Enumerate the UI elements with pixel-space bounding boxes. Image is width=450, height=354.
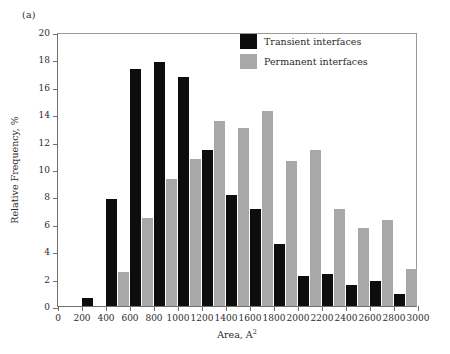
y-tick-6: 6: [53, 226, 58, 227]
x-tick-label-2800: 2800: [383, 313, 406, 323]
y-tick-label-4: 4: [44, 247, 50, 257]
x-tick-2400: [346, 306, 347, 311]
y-axis-title: Relative Frequency, %: [9, 116, 20, 224]
x-axis-title-base: Area, A: [217, 329, 253, 340]
y-tick-16: 16: [53, 89, 58, 90]
x-tick-label-600: 600: [121, 313, 138, 323]
plot-area: 02468101214161820 0200400600800100012001…: [57, 33, 417, 307]
y-axis-ticks: 02468101214161820: [58, 34, 416, 306]
x-tick-3000: [418, 306, 419, 311]
legend-label: Transient interfaces: [264, 36, 361, 47]
legend-item-transient: Transient interfaces: [240, 34, 368, 49]
y-tick-label-0: 0: [44, 302, 50, 312]
y-tick-label-8: 8: [44, 192, 50, 202]
y-tick-14: 14: [53, 116, 58, 117]
legend-item-permanent: Permanent interfaces: [240, 54, 368, 69]
x-tick-1600: [250, 306, 251, 311]
y-tick-label-16: 16: [39, 83, 50, 93]
x-tick-label-1400: 1400: [215, 313, 238, 323]
x-tick-label-400: 400: [97, 313, 114, 323]
figure-panel-a: (a) Relative Frequency, % Area, A2 02468…: [0, 0, 450, 354]
legend-swatch-icon: [240, 34, 257, 49]
x-tick-label-2000: 2000: [287, 313, 310, 323]
x-tick-1200: [202, 306, 203, 311]
x-tick-2000: [298, 306, 299, 311]
x-tick-label-2600: 2600: [359, 313, 382, 323]
x-tick-label-1800: 1800: [263, 313, 286, 323]
x-tick-label-1600: 1600: [239, 313, 262, 323]
x-tick-label-2200: 2200: [311, 313, 334, 323]
x-tick-label-800: 800: [145, 313, 162, 323]
x-tick-1000: [178, 306, 179, 311]
x-tick-2200: [322, 306, 323, 311]
x-tick-400: [106, 306, 107, 311]
y-tick-10: 10: [53, 171, 58, 172]
x-tick-1400: [226, 306, 227, 311]
x-tick-0: [58, 306, 59, 311]
y-tick-18: 18: [53, 61, 58, 62]
x-tick-label-1200: 1200: [191, 313, 214, 323]
y-tick-label-12: 12: [39, 138, 50, 148]
x-tick-label-0: 0: [55, 313, 61, 323]
legend-swatch-icon: [240, 54, 257, 69]
x-tick-600: [130, 306, 131, 311]
y-tick-label-14: 14: [39, 110, 50, 120]
x-tick-2800: [394, 306, 395, 311]
y-tick-20: 20: [53, 34, 58, 35]
y-tick-8: 8: [53, 198, 58, 199]
x-tick-label-3000: 3000: [407, 313, 430, 323]
legend: Transient interfacesPermanent interfaces: [240, 34, 368, 69]
x-tick-label-1000: 1000: [167, 313, 190, 323]
x-tick-label-200: 200: [73, 313, 90, 323]
x-axis-title: Area, A2: [217, 328, 257, 340]
y-tick-label-10: 10: [39, 165, 50, 175]
x-tick-200: [82, 306, 83, 311]
legend-label: Permanent interfaces: [264, 56, 368, 67]
x-tick-2600: [370, 306, 371, 311]
x-tick-1800: [274, 306, 275, 311]
y-tick-2: 2: [53, 281, 58, 282]
x-tick-800: [154, 306, 155, 311]
y-tick-4: 4: [53, 253, 58, 254]
y-tick-label-6: 6: [44, 220, 50, 230]
y-tick-label-20: 20: [39, 28, 50, 38]
y-tick-label-2: 2: [44, 275, 50, 285]
x-tick-label-2400: 2400: [335, 313, 358, 323]
x-axis-title-exponent: 2: [253, 328, 257, 336]
panel-label: (a): [22, 9, 36, 20]
y-tick-label-18: 18: [39, 55, 50, 65]
y-tick-12: 12: [53, 144, 58, 145]
